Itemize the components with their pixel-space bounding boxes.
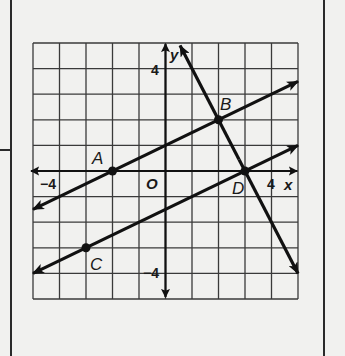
point-c-dot <box>82 243 91 252</box>
worksheet-panel: x y O −4 4 4 −4 A B C D <box>0 0 345 356</box>
point-label-a: A <box>91 149 103 168</box>
y-axis-label: y <box>169 46 179 63</box>
point-d-dot <box>241 167 250 176</box>
x-axis-label: x <box>283 176 293 193</box>
y-tick-neg4: −4 <box>143 265 159 281</box>
point-b-dot <box>214 115 223 124</box>
line-ab-segment-b <box>166 81 299 145</box>
y-tick-4: 4 <box>151 62 159 78</box>
point-a-dot <box>108 167 117 176</box>
line-cd-segment-b <box>166 145 299 209</box>
point-label-c: C <box>90 255 103 274</box>
x-tick-neg4: −4 <box>40 176 56 192</box>
point-label-d: D <box>232 179 244 198</box>
point-label-b: B <box>220 95 231 114</box>
axes <box>31 44 297 297</box>
coordinate-plane: x y O −4 4 4 −4 A B C D <box>0 0 345 356</box>
x-tick-4: 4 <box>267 176 275 192</box>
origin-label: O <box>146 175 158 192</box>
